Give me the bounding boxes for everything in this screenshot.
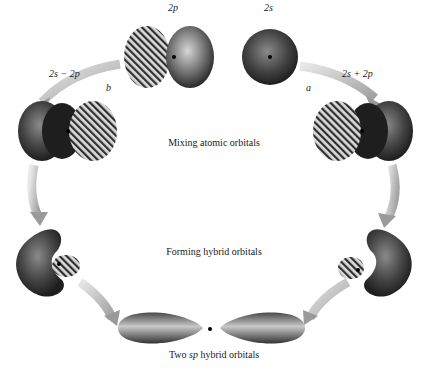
label-path-b: b [106,82,111,93]
nucleus-dot [268,55,272,59]
label-2p: 2p [168,2,178,13]
sp-hybridization-diagram [0,0,428,368]
2s-plus-2p-mixed-orbital [313,101,413,161]
nucleus-dot [172,55,176,59]
forming-hybrid-left [16,229,80,296]
sp-hybrid-right-lobe [220,313,305,344]
sp-hybrid-orbitals [118,313,305,344]
2p-orbital [124,26,214,88]
arrow-left-to-hybrid [80,282,120,326]
2p-negative-lobe-hatched [124,26,170,88]
2s-minus-2p-mixed-orbital [18,101,117,161]
arrow-right-down [378,165,396,228]
sp-hybrid-left-lobe [118,313,203,344]
caption-result: Two sp hybrid orbitals [169,349,259,360]
nucleus-dot [208,327,212,331]
caption-forming: Forming hybrid orbitals [166,246,262,257]
label-path-a: a [306,82,311,93]
caption-mixing: Mixing atomic orbitals [168,137,260,148]
arrow-right-to-hybrid [303,282,348,325]
label-2s-plus-2p: 2s + 2p [342,68,373,79]
arrow-left-down [30,165,48,226]
2s-orbital [242,29,298,85]
label-2s: 2s [264,2,273,13]
label-2s-minus-2p: 2s − 2p [49,68,80,79]
